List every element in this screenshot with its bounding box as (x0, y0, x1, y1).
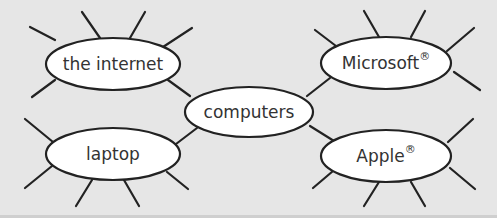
node-laptop: laptop (46, 128, 180, 180)
spoke-microsoft (364, 11, 379, 37)
node-the-internet-label: the internet (63, 54, 164, 74)
bottom-border (0, 215, 497, 218)
mind-map-diagram: the internetMicrosoft®laptopApple® compu… (0, 0, 497, 218)
node-apple: Apple® (321, 130, 451, 182)
spoke-the-internet (130, 12, 145, 38)
spoke-laptop (167, 172, 188, 189)
spoke-laptop (25, 119, 53, 142)
spoke-apple (448, 119, 473, 142)
spoke-the-internet (32, 80, 55, 97)
spoke-microsoft (315, 30, 336, 46)
spoke-laptop (76, 180, 92, 206)
spoke-apple (313, 171, 333, 188)
spoke-laptop (25, 166, 52, 188)
spoke-the-internet (82, 12, 100, 38)
node-group: the internetMicrosoft®laptopApple® compu… (46, 37, 451, 182)
spoke-the-internet (163, 28, 192, 47)
spoke-the-internet (30, 27, 55, 40)
connector-the-internet (168, 80, 190, 96)
node-computers-label: computers (204, 102, 295, 122)
connector-laptop (176, 128, 197, 144)
connector-apple (310, 126, 334, 141)
registered-mark: ® (419, 50, 430, 63)
spoke-microsoft (447, 28, 474, 51)
spoke-apple (450, 168, 475, 189)
spoke-laptop (124, 180, 139, 206)
connector-microsoft (307, 78, 330, 96)
node-microsoft-label: Microsoft® (342, 50, 430, 74)
spoke-microsoft (454, 72, 480, 90)
mind-map-canvas: the internetMicrosoft®laptopApple® compu… (0, 0, 497, 218)
node-microsoft: Microsoft® (321, 37, 451, 89)
spoke-microsoft (411, 11, 425, 37)
spoke-apple (411, 182, 425, 206)
spoke-apple (364, 182, 379, 206)
node-laptop-label: laptop (86, 144, 140, 164)
node-computers: computers (185, 87, 313, 137)
node-the-internet: the internet (46, 38, 180, 90)
registered-mark: ® (405, 143, 416, 156)
